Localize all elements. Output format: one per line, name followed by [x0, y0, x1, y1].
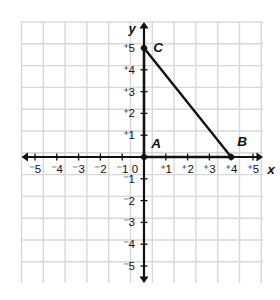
point-labels-group: ABC: [150, 40, 247, 151]
y-axis-tick-label: ⁻5: [123, 260, 135, 272]
point-label-b: B: [237, 134, 247, 149]
x-axis-tick-label: ⁺2: [181, 163, 193, 175]
x-axis-tick-label: ⁻2: [94, 163, 106, 175]
x-axis-tick-label: ⁻3: [72, 163, 84, 175]
x-axis-tick-label: ⁻5: [29, 163, 41, 175]
y-axis-tick-label: ⁻2: [123, 195, 135, 207]
plotted-point-b: [228, 154, 234, 160]
x-axis-tick-label: ⁺3: [203, 163, 215, 175]
origin-label: 0: [132, 163, 138, 175]
x-axis-arrow-left: [22, 152, 29, 161]
x-axis-tick-label: ⁻4: [51, 163, 64, 175]
point-label-c: C: [153, 40, 163, 55]
y-axis-tick-label: ⁺3: [123, 86, 135, 98]
y-axis-tick-label: ⁺4: [123, 64, 136, 76]
coordinate-plane-svg: ⁻5⁻4⁻3⁻2⁻1⁺1⁺2⁺3⁺4⁺5⁺5⁺4⁺3⁺2⁺1⁻1⁻2⁻3⁻4⁻5…: [0, 0, 280, 300]
x-axis-arrow-right: [257, 152, 264, 161]
y-axis-tick-label: ⁻3: [123, 216, 135, 228]
point-label-a: A: [150, 136, 161, 151]
coordinate-plane-figure: ⁻5⁻4⁻3⁻2⁻1⁺1⁺2⁺3⁺4⁺5⁺5⁺4⁺3⁺2⁺1⁻1⁻2⁻3⁻4⁻5…: [0, 0, 280, 300]
y-axis-arrow-up: [139, 22, 148, 29]
y-axis-label: y: [127, 21, 136, 36]
x-axis-label: x: [266, 162, 275, 177]
y-axis-tick-label: ⁺5: [123, 42, 135, 54]
x-axis-tick-label: ⁺5: [247, 163, 259, 175]
x-axis-tick-label: ⁺1: [160, 163, 172, 175]
y-axis-arrow-down: [139, 277, 148, 284]
plotted-point-a: [141, 154, 147, 160]
y-axis-tick-label: ⁻4: [123, 238, 136, 250]
y-axis-tick-label: ⁺1: [123, 129, 135, 141]
x-axis-tick-label: ⁺4: [225, 163, 238, 175]
plotted-point-c: [141, 45, 147, 51]
y-axis-tick-label: ⁺2: [123, 107, 135, 119]
